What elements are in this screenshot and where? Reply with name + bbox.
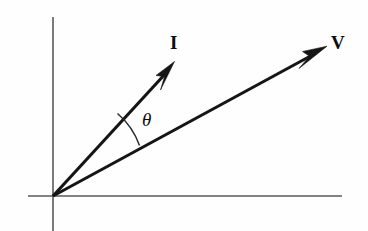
- vector-i-arrowhead: [156, 62, 175, 91]
- vector-v: [53, 46, 327, 196]
- angle-theta-label: θ: [142, 109, 151, 130]
- vector-v-label: V: [331, 32, 345, 53]
- vector-v-shaft: [53, 53, 316, 196]
- vector-i-shaft: [53, 73, 166, 196]
- vector-diagram-figure: I V θ: [0, 0, 368, 231]
- vector-v-arrowhead: [299, 46, 327, 68]
- angle-arc: [118, 114, 140, 146]
- vector-i-label: I: [170, 32, 177, 53]
- vector-i: [53, 62, 175, 197]
- vector-diagram-canvas: I V θ: [0, 0, 368, 231]
